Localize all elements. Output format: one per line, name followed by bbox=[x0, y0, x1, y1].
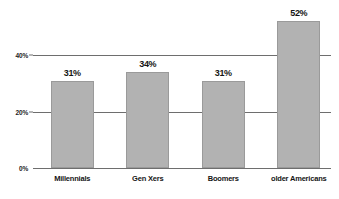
x-axis-category-label: Boomers bbox=[208, 174, 239, 183]
y-axis-tick-label: 0% bbox=[19, 165, 28, 172]
x-axis-category-label: older Americans bbox=[271, 174, 327, 183]
x-axis-category-label: Millennials bbox=[54, 174, 90, 183]
bar-value-label: 31% bbox=[64, 68, 81, 78]
plot-area: 0%20%40%31%Millennials34%Gen Xers31%Boom… bbox=[33, 10, 331, 168]
bar[interactable]: 34%Gen Xers bbox=[126, 72, 169, 168]
bar-value-label: 31% bbox=[215, 68, 232, 78]
bar-value-label: 52% bbox=[290, 8, 307, 18]
bar[interactable]: 31%Boomers bbox=[202, 81, 245, 168]
bar-chart: 0%20%40%31%Millennials34%Gen Xers31%Boom… bbox=[0, 0, 339, 199]
x-axis-line bbox=[33, 168, 331, 169]
y-axis-tick-label: 40% bbox=[16, 52, 28, 59]
x-axis-category-label: Gen Xers bbox=[132, 174, 163, 183]
y-axis-tick-label: 20% bbox=[16, 108, 28, 115]
bar-value-label: 34% bbox=[139, 59, 156, 69]
bar[interactable]: 52%older Americans bbox=[277, 21, 320, 168]
bar[interactable]: 31%Millennials bbox=[51, 81, 94, 168]
